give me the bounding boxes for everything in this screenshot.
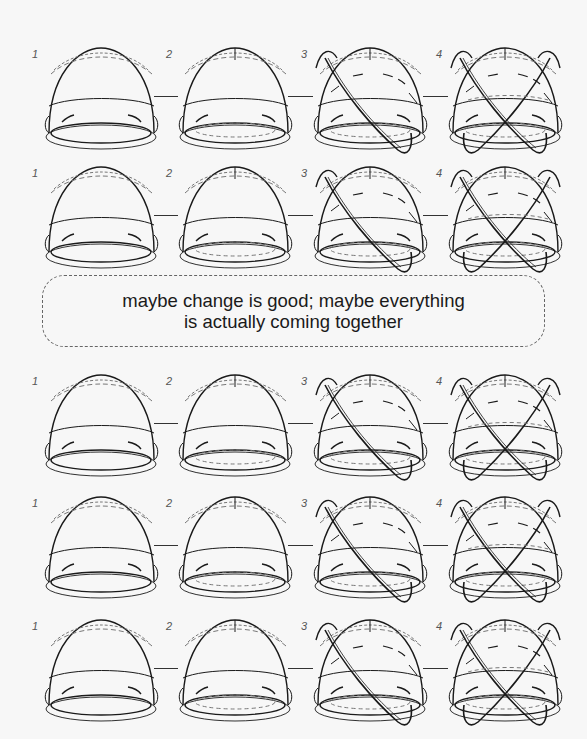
dome-icon — [170, 167, 290, 279]
dome-stage-2: 2 — [170, 497, 290, 607]
dome-stage-3: 3 — [305, 497, 425, 607]
dome-icon — [305, 48, 425, 160]
dome-stage-1: 1 — [36, 497, 156, 607]
dome-stage-2: 2 — [170, 48, 290, 158]
dome-row-5: 1234 — [0, 620, 587, 730]
dome-stage-3: 3 — [305, 620, 425, 730]
dome-stage-4: 4 — [440, 620, 560, 730]
dome-stage-4: 4 — [440, 48, 560, 158]
dome-icon — [440, 167, 560, 279]
dome-stage-1: 1 — [36, 375, 156, 485]
dome-stage-2: 2 — [170, 375, 290, 485]
dome-stage-3: 3 — [305, 167, 425, 277]
dome-icon — [305, 620, 425, 732]
dome-icon — [440, 497, 560, 609]
dome-icon — [170, 620, 290, 732]
dome-row-3: 1234 — [0, 375, 587, 485]
dome-icon — [305, 375, 425, 487]
dome-icon — [305, 167, 425, 279]
dome-icon — [36, 620, 156, 732]
caption-box: maybe change is good; maybe everything i… — [42, 275, 545, 347]
dome-row-1: 1234 — [0, 48, 587, 158]
dome-icon — [170, 497, 290, 609]
dome-stage-2: 2 — [170, 167, 290, 277]
dome-stage-1: 1 — [36, 167, 156, 277]
dome-icon — [440, 48, 560, 160]
dome-row-4: 1234 — [0, 497, 587, 607]
dome-stage-4: 4 — [440, 167, 560, 277]
dome-stage-1: 1 — [36, 48, 156, 158]
dome-icon — [440, 620, 560, 732]
dome-stage-2: 2 — [170, 620, 290, 730]
dome-row-2: 1234 — [0, 167, 587, 277]
dome-stage-1: 1 — [36, 620, 156, 730]
dome-stage-4: 4 — [440, 375, 560, 485]
dome-stage-3: 3 — [305, 375, 425, 485]
dome-icon — [36, 375, 156, 487]
dome-icon — [170, 375, 290, 487]
dome-icon — [36, 497, 156, 609]
dome-icon — [170, 48, 290, 160]
dome-stage-4: 4 — [440, 497, 560, 607]
caption-line-2: is actually coming together — [184, 311, 403, 332]
dome-icon — [305, 497, 425, 609]
dome-icon — [36, 167, 156, 279]
caption-line-1: maybe change is good; maybe everything — [122, 290, 464, 311]
dome-icon — [440, 375, 560, 487]
dome-icon — [36, 48, 156, 160]
dome-stage-3: 3 — [305, 48, 425, 158]
